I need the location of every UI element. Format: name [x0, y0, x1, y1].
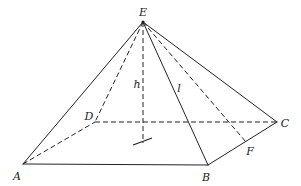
- vertex-label-a: A: [13, 171, 21, 182]
- vertex-label-d: D: [85, 111, 94, 122]
- pyramid-diagram: E A B C D F h l: [0, 0, 301, 186]
- edge-AD-hidden: [23, 122, 95, 164]
- edge-BC: [208, 122, 277, 165]
- edge-ED-hidden: [95, 22, 143, 122]
- point-label-f: F: [246, 146, 254, 157]
- vertex-label-c: C: [281, 118, 289, 129]
- vertex-label-b: B: [202, 172, 210, 183]
- apex-point: [141, 20, 144, 23]
- pyramid-drawing: [0, 0, 301, 186]
- edge-EB: [143, 22, 208, 165]
- edge-EA: [23, 22, 143, 164]
- edge-EC: [143, 22, 277, 122]
- vertex-label-e: E: [139, 7, 147, 18]
- slant-height-EF: [143, 22, 246, 142]
- height-label-h: h: [133, 79, 140, 90]
- foot-marker: [133, 138, 152, 145]
- slant-label-l: l: [177, 83, 181, 94]
- edge-AB: [23, 164, 208, 165]
